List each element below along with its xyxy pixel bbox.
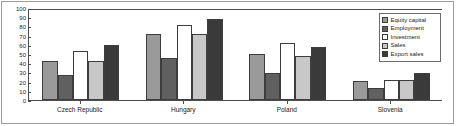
bar [353,81,368,100]
legend-item[interactable]: Employment [382,25,438,33]
legend-swatch-icon [382,26,388,32]
bar [192,34,207,100]
y-axis-tick-label: 90 [2,15,26,21]
bar [207,19,222,100]
legend-item[interactable]: Export sales [382,50,438,58]
x-axis-tick-mark [390,101,391,104]
y-axis-tick-label: 20 [2,80,26,86]
y-axis-tick-mark [28,83,31,84]
bar [104,45,119,100]
bar [384,80,399,100]
bar [146,34,161,100]
y-axis-tick-label: 30 [2,70,26,76]
bar [295,56,310,100]
y-axis-tick-mark [28,101,31,102]
bar-chart-figure: 1009080706050403020100 Equity capitalEmp… [0,0,456,126]
x-axis-category-label: Czech Republic [57,106,103,114]
y-axis-tick-mark [28,64,31,65]
legend-item[interactable]: Sales [382,42,438,50]
y-axis-tick-label: 40 [2,61,26,67]
legend-swatch-icon [382,51,388,57]
y-axis-tick-label: 80 [2,24,26,30]
legend-item-label: Employment [391,25,424,32]
bar [399,80,414,100]
bar [368,88,383,100]
x-axis-category-label: Poland [277,106,297,114]
y-axis-tick-mark [28,55,31,56]
x-axis-tick-mark [287,101,288,104]
y-axis-tick-label: 100 [2,6,26,12]
bar-group [133,10,237,100]
bar [265,73,280,100]
y-axis-tick-label: 70 [2,34,26,40]
x-axis-tick-mark [183,101,184,104]
x-axis-tick-mark [80,101,81,104]
y-axis: 1009080706050403020100 [0,0,26,126]
y-axis-tick-label: 50 [2,52,26,58]
y-axis-tick-mark [28,18,31,19]
legend-swatch-icon [382,43,388,49]
bar [73,51,88,100]
legend-item-label: Investment [391,34,420,41]
bar [249,54,264,100]
bar [161,58,176,100]
y-axis-tick-label: 60 [2,43,26,49]
bar [414,73,429,100]
legend-item[interactable]: Equity capital [382,16,438,24]
x-axis-category-label: Hungary [171,106,196,114]
legend-item[interactable]: Investment [382,33,438,41]
y-axis-tick-mark [28,73,31,74]
legend-swatch-icon [382,17,388,23]
y-axis-tick-mark [28,37,31,38]
x-axis-category-label: Slovenia [378,106,403,114]
bar [88,61,103,100]
legend-swatch-icon [382,34,388,40]
legend-item-label: Export sales [391,51,424,58]
y-axis-tick-mark [28,92,31,93]
y-axis-tick-mark [28,27,31,28]
legend-item-label: Equity capital [391,17,427,24]
bar [177,25,192,100]
bar [311,47,326,100]
bar-group [236,10,340,100]
y-axis-tick-mark [28,9,31,10]
bar-group [29,10,133,100]
bar [58,75,73,100]
bar [280,43,295,100]
y-axis-tick-mark [28,46,31,47]
y-axis-tick-label: 0 [2,98,26,104]
bar [42,61,57,100]
legend-item-label: Sales [391,42,406,49]
y-axis-tick-label: 10 [2,89,26,95]
chart-legend: Equity capitalEmploymentInvestmentSalesE… [379,13,441,62]
